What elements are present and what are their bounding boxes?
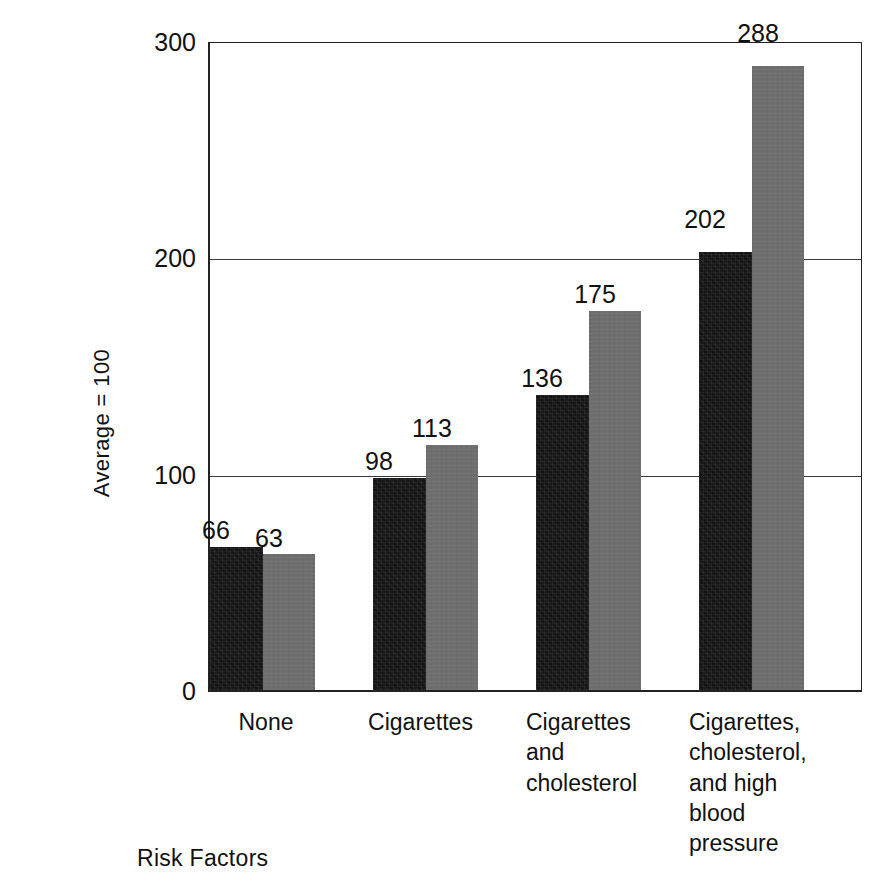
y-axis-tick-0: 0 bbox=[96, 679, 196, 704]
bar-cigarettes-cholesterol-bp-series1[interactable] bbox=[699, 252, 752, 690]
bar-value-cigarettes-cholesterol-series2: 175 bbox=[562, 282, 628, 307]
y-axis-tick-200: 200 bbox=[96, 246, 196, 271]
bar-cigarettes-cholesterol-series2[interactable] bbox=[589, 311, 641, 690]
bar-none-series1[interactable] bbox=[210, 547, 263, 690]
bar-value-none-series2: 63 bbox=[236, 526, 302, 551]
bar-cigarettes-cholesterol-series1[interactable] bbox=[536, 395, 589, 690]
bar-value-cigarettes-series1: 98 bbox=[346, 449, 412, 474]
x-axis-category-cigarettes-cholesterol: Cigarettes and cholesterol bbox=[526, 707, 686, 798]
bar-cigarettes-series1[interactable] bbox=[373, 478, 426, 690]
bar-none-series2[interactable] bbox=[263, 554, 315, 690]
x-axis-category-none: None bbox=[196, 707, 336, 737]
y-axis-tick-300: 300 bbox=[96, 30, 196, 55]
x-axis-category-cigarettes-cholesterol-bp: Cigarettes, cholesterol, and high blood … bbox=[689, 707, 864, 859]
bar-chart-figure: 300 200 100 0 Average = 100 66 63 98 113… bbox=[0, 0, 894, 885]
bar-value-cigarettes-cholesterol-bp-series1: 202 bbox=[672, 207, 738, 232]
bar-value-cigarettes-series2: 113 bbox=[399, 416, 465, 441]
bar-cigarettes-series2[interactable] bbox=[426, 445, 478, 690]
y-axis-label: Average = 100 bbox=[89, 303, 115, 543]
bar-value-cigarettes-cholesterol-series1: 136 bbox=[509, 366, 575, 391]
bar-cigarettes-cholesterol-bp-series2[interactable] bbox=[752, 66, 804, 690]
x-axis-label: Risk Factors bbox=[137, 845, 268, 872]
x-axis-category-cigarettes: Cigarettes bbox=[338, 707, 503, 737]
bar-value-cigarettes-cholesterol-bp-series2: 288 bbox=[725, 21, 791, 46]
